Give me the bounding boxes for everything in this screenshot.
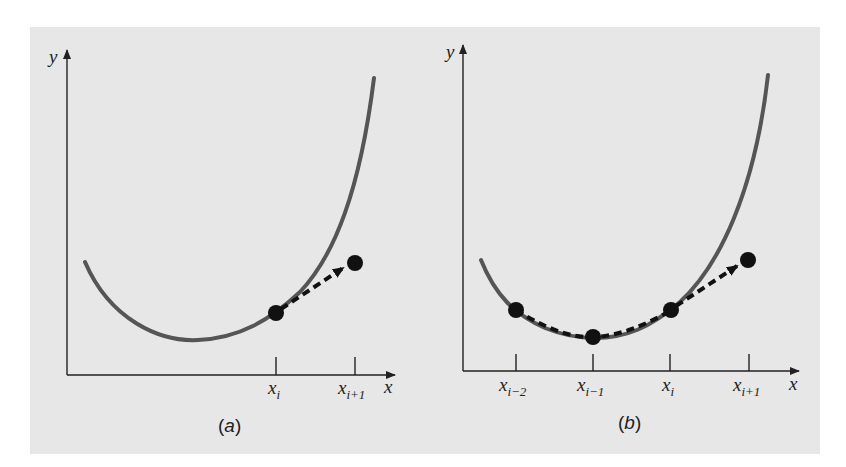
tick-label-xi1-b: xi+1 (732, 374, 760, 399)
extrapolation-arrow-a (281, 268, 343, 309)
point-xi-2-b (508, 302, 524, 318)
function-curve-a (85, 78, 374, 340)
x-axis-label-a: x (383, 376, 393, 397)
tick-label-xi1-a: xi+1 (337, 377, 365, 402)
point-xi-b (663, 302, 679, 318)
x-axis-label-b: x (788, 373, 798, 394)
tick-label-xi-2-b: xi−2 (498, 374, 527, 399)
y-axis-label-a: y (47, 46, 58, 67)
caption-b: (b) (618, 412, 641, 433)
tick-label-xi-a: xi (267, 377, 280, 402)
panel-b: y x xi−2 xi−1 xi xi+1 (b (444, 41, 799, 433)
point-xi-a (268, 305, 284, 321)
point-xi-1-b (585, 329, 601, 345)
point-xi1-a (347, 255, 363, 271)
tick-label-xi-1-b: xi−1 (576, 374, 604, 399)
point-xi1-b (740, 252, 756, 268)
function-curve-b (481, 75, 768, 338)
diagram-canvas: y x xi xi+1 (a) y x (0, 0, 846, 467)
tick-label-xi-b: xi (661, 374, 674, 399)
panel-a: y x xi xi+1 (a) (47, 46, 395, 436)
caption-a: (a) (218, 415, 241, 436)
y-axis-label-b: y (444, 41, 455, 62)
